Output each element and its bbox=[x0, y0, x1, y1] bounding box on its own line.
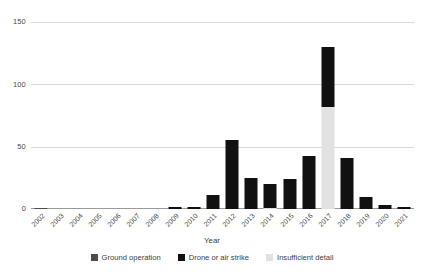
bar-2014[interactable] bbox=[264, 184, 277, 209]
bar-slot bbox=[127, 22, 146, 209]
bar-slot bbox=[184, 22, 203, 209]
legend-label: Ground operation bbox=[102, 253, 161, 262]
bar-segment bbox=[283, 179, 296, 209]
bar-segment bbox=[321, 47, 334, 108]
bar-slot bbox=[31, 22, 50, 209]
bar-slot bbox=[50, 22, 69, 209]
bar-2016[interactable] bbox=[302, 156, 315, 209]
bar-chart: 150 100 50 0 200220032004200520062007200… bbox=[0, 0, 424, 279]
y-tick-label-0: 0 bbox=[0, 205, 26, 213]
plot-area bbox=[31, 22, 414, 209]
bar-2015[interactable] bbox=[283, 179, 296, 209]
bar-segment bbox=[340, 158, 353, 209]
bar-2013[interactable] bbox=[245, 178, 258, 209]
bar-slot bbox=[242, 22, 261, 209]
bar-segment bbox=[245, 178, 258, 209]
bar-series-container bbox=[31, 22, 414, 209]
bar-slot bbox=[146, 22, 165, 209]
bar-segment bbox=[379, 205, 392, 209]
bar-slot bbox=[108, 22, 127, 209]
bar-slot bbox=[261, 22, 280, 209]
bar-2010[interactable] bbox=[187, 207, 200, 209]
bar-slot bbox=[357, 22, 376, 209]
legend-label: Insufficient detail bbox=[277, 253, 333, 262]
legend-swatch-icon bbox=[266, 254, 273, 261]
bar-2011[interactable] bbox=[206, 195, 219, 209]
bar-2019[interactable] bbox=[360, 197, 373, 209]
bar-2018[interactable] bbox=[340, 158, 353, 209]
bar-2021[interactable] bbox=[398, 207, 411, 209]
bar-slot bbox=[69, 22, 88, 209]
bar-segment bbox=[168, 207, 181, 209]
bar-slot bbox=[280, 22, 299, 209]
bar-2002[interactable] bbox=[34, 208, 47, 209]
chart-legend: Ground operation Drone or air strike Ins… bbox=[0, 253, 424, 262]
bar-slot bbox=[203, 22, 222, 209]
bar-segment bbox=[226, 140, 239, 209]
bar-segment bbox=[34, 208, 47, 209]
bar-slot bbox=[88, 22, 107, 209]
legend-label: Drone or air strike bbox=[189, 253, 249, 262]
y-tick-label-50: 50 bbox=[0, 143, 26, 151]
bar-segment bbox=[206, 195, 219, 209]
bar-slot bbox=[337, 22, 356, 209]
legend-item-drone-or-air-strike: Drone or air strike bbox=[178, 253, 249, 262]
y-tick-label-150: 150 bbox=[0, 18, 26, 26]
bar-segment bbox=[398, 207, 411, 209]
bar-2012[interactable] bbox=[226, 140, 239, 209]
bar-slot bbox=[165, 22, 184, 209]
bar-segment bbox=[321, 107, 334, 209]
bar-slot bbox=[223, 22, 242, 209]
bar-slot bbox=[395, 22, 414, 209]
legend-item-ground-operation: Ground operation bbox=[91, 253, 161, 262]
y-tick-label-100: 100 bbox=[0, 81, 26, 89]
bar-segment bbox=[360, 197, 373, 209]
legend-swatch-icon bbox=[91, 254, 98, 261]
x-axis-title: Year bbox=[0, 236, 424, 245]
bar-slot bbox=[318, 22, 337, 209]
bar-2017[interactable] bbox=[321, 47, 334, 209]
bar-segment bbox=[187, 207, 200, 209]
bar-2009[interactable] bbox=[168, 207, 181, 209]
bar-segment bbox=[302, 156, 315, 209]
bar-slot bbox=[299, 22, 318, 209]
bar-2020[interactable] bbox=[379, 205, 392, 209]
bar-segment bbox=[264, 184, 277, 208]
legend-swatch-icon bbox=[178, 254, 185, 261]
legend-item-insufficient-detail: Insufficient detail bbox=[266, 253, 333, 262]
bar-segment bbox=[264, 208, 277, 209]
bar-slot bbox=[376, 22, 395, 209]
